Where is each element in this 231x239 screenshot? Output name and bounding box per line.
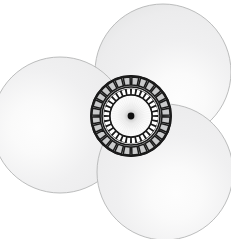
center-dot <box>128 113 135 120</box>
sphere-packing-diagram <box>0 0 231 239</box>
figure-canvas <box>0 0 231 239</box>
disc-outer-segment <box>161 108 170 115</box>
disc-outer-segment <box>92 117 101 124</box>
disc-outer-segment <box>123 77 130 86</box>
disc-outer-segment <box>123 146 130 155</box>
disc-outer-segment <box>92 108 101 115</box>
disc-outer-segment <box>132 146 139 155</box>
disc-outer-segment <box>132 77 139 86</box>
central-cation-disc <box>91 76 171 156</box>
disc-outer-segment <box>161 117 170 124</box>
